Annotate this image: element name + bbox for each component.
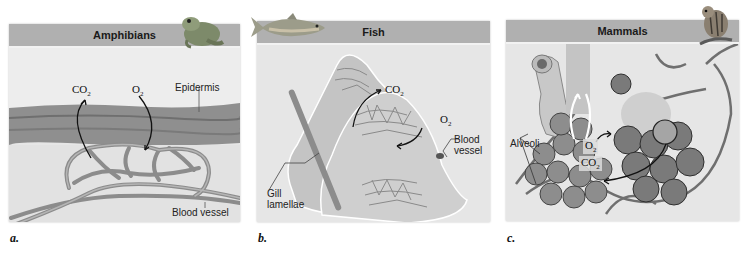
frog-icon <box>177 10 227 50</box>
alveoli-label: Alveoli <box>510 138 539 149</box>
fish-icon <box>249 11 329 43</box>
mammal-alveoli-illustration: O2 CO2 Alveoli <box>506 44 739 221</box>
panel-letter-c: c. <box>507 231 515 246</box>
o2-label: O2 <box>583 139 598 154</box>
epidermis-label: Epidermis <box>175 82 219 93</box>
gill-lamellae-label: Gilllamellae <box>267 188 304 210</box>
co2-label: CO2 <box>72 83 91 98</box>
alveoli-diagram <box>506 44 739 221</box>
co2-label: CO2 <box>385 83 404 98</box>
blood-vessel-label: Bloodvessel <box>454 134 482 156</box>
blood-vessel-label: Blood vessel <box>172 207 229 218</box>
panel-letter-b: b. <box>258 231 267 246</box>
o2-label: O2 <box>132 83 143 98</box>
panel-mammals: Mammals <box>506 20 739 221</box>
co2-label: CO2 <box>579 156 602 171</box>
panel-letter-a: a. <box>10 231 19 246</box>
chipmunk-icon <box>694 0 734 50</box>
amphibian-skin-illustration: CO2 O2 Epidermis Blood vessel <box>9 48 240 222</box>
panel-fish: Fish CO2 O2 Bloodvessel Gilllamellae <box>257 21 490 222</box>
skin-capillary-diagram <box>9 48 240 222</box>
o2-label: O2 <box>440 113 451 128</box>
panel-amphibians: Amphibians <box>9 24 240 222</box>
fish-gill-illustration: CO2 O2 Bloodvessel Gilllamellae <box>257 45 490 222</box>
